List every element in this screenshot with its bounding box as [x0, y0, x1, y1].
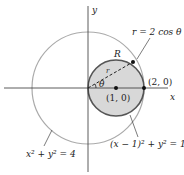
polar-equation-label: r = 2 cos θ	[132, 27, 182, 37]
point-on-curve	[131, 60, 135, 64]
leader-polar	[137, 38, 150, 59]
y-axis-label: y	[91, 5, 98, 15]
angle-label: θ	[99, 79, 105, 89]
polar-region-diagram: y x R r θ (1, 0) (2, 0) r = 2 cos θ (x −…	[0, 0, 184, 175]
leader-small-circle	[130, 115, 138, 137]
point-2-0	[142, 86, 146, 90]
small-circle-equation-label: (x − 1)² + y² = 1	[110, 139, 184, 149]
region-label: R	[113, 49, 121, 59]
leader-big-circle	[44, 130, 52, 146]
big-circle-equation-label: x² + y² = 4	[26, 149, 76, 159]
x-axis-label: x	[170, 92, 175, 102]
point-1-0-label: (1, 0)	[106, 93, 130, 103]
point-1-0	[114, 86, 118, 90]
point-2-0-label: (2, 0)	[148, 77, 172, 87]
